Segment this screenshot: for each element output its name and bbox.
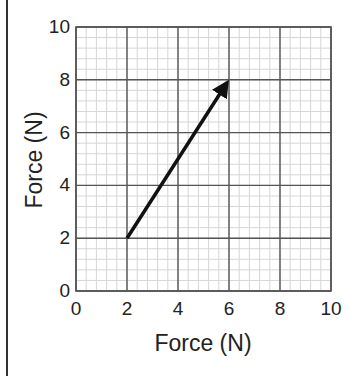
x-tick-label: 8: [275, 298, 286, 320]
force-vector-arrow: [127, 83, 227, 238]
force-vector-diagram: 02468100246810 Force (N) Force (N): [0, 0, 356, 376]
x-axis-label: Force (N): [154, 330, 251, 357]
y-tick-label: 8: [0, 69, 70, 91]
y-tick-label: 0: [0, 280, 70, 302]
x-tick-label: 4: [173, 298, 184, 320]
x-tick-label: 2: [122, 298, 133, 320]
y-axis-label: Force (N): [21, 111, 48, 208]
y-tick-label: 10: [0, 16, 70, 38]
x-tick-label: 6: [224, 298, 235, 320]
y-tick-label: 2: [0, 227, 70, 249]
x-tick-label: 0: [71, 298, 82, 320]
x-tick-label: 10: [320, 298, 341, 320]
